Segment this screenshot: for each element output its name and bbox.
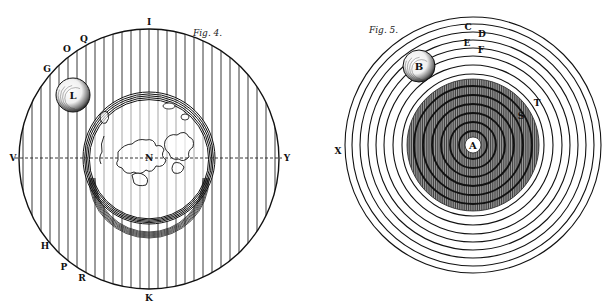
point-label-f: F — [478, 45, 485, 55]
moon-B: B — [403, 50, 435, 82]
continent-outline — [100, 111, 109, 123]
point-label-t: T — [534, 98, 541, 108]
point-label-c: C — [464, 22, 471, 32]
point-label-s: S — [518, 111, 525, 121]
point-label-v: V — [9, 153, 18, 163]
point-label-h: H — [41, 241, 50, 251]
figure-4: N L VYIQOGHPRK Fig. 4. — [9, 17, 291, 303]
shaded-disc: A — [407, 79, 539, 211]
point-label-y: Y — [283, 153, 291, 163]
point-label-r: R — [78, 273, 86, 283]
figure-caption: Fig. 4. — [192, 28, 222, 38]
point-label-d: D — [478, 29, 486, 39]
point-label-k: K — [145, 293, 154, 303]
island-outline — [163, 103, 175, 109]
point-label-g: G — [43, 64, 51, 74]
moon-label: B — [415, 61, 423, 72]
diagram-canvas: N L VYIQOGHPRK Fig. 4. A B CDEFTSX Fig. … — [0, 0, 609, 306]
point-label-o: O — [63, 44, 71, 54]
point-label-p: P — [61, 262, 68, 272]
moon-label: L — [69, 90, 76, 101]
earth-globe: N — [83, 92, 215, 238]
moon-L: L — [56, 78, 90, 112]
point-label-x: X — [335, 146, 342, 156]
point-label-e: E — [464, 38, 471, 48]
figure-caption: Fig. 5. — [368, 25, 398, 35]
island-outline — [181, 114, 189, 120]
center-label: A — [468, 140, 477, 151]
point-label-i: I — [147, 17, 151, 27]
figure-5: A B CDEFTSX Fig. 5. — [335, 17, 601, 273]
point-label-q: Q — [80, 34, 88, 44]
